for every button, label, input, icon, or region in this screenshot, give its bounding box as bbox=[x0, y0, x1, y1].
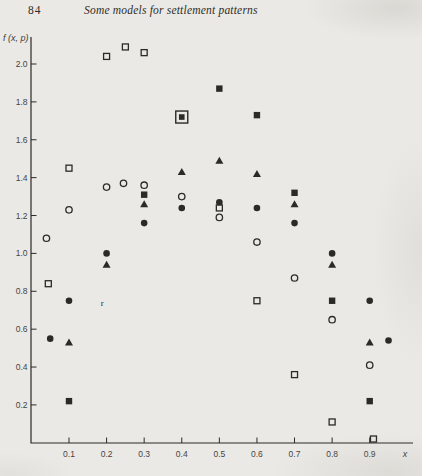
y-tick-label: 1.2 bbox=[16, 211, 28, 221]
marker-square-filled bbox=[291, 190, 297, 196]
y-tick-label: 1.4 bbox=[16, 173, 28, 183]
marker-circle-open bbox=[329, 316, 335, 322]
marker-circle-open bbox=[254, 239, 260, 245]
marker-triangle-filled bbox=[103, 261, 111, 268]
marker-square-open bbox=[292, 372, 298, 378]
marker-circle-filled bbox=[47, 335, 54, 342]
marker-triangle-filled bbox=[65, 339, 73, 346]
y-tick-label: 0.4 bbox=[16, 362, 28, 372]
marker-triangle-filled bbox=[215, 157, 223, 164]
x-tick-label: 0.6 bbox=[251, 449, 263, 459]
marker-square-open bbox=[104, 53, 110, 59]
x-axis-label: x bbox=[402, 449, 408, 459]
marker-circle-filled bbox=[385, 337, 392, 344]
marker-square-filled bbox=[216, 85, 222, 91]
y-tick-label: 0.2 bbox=[16, 400, 28, 410]
marker-square-open bbox=[45, 281, 51, 287]
x-tick-label: 0.7 bbox=[289, 449, 301, 459]
marker-circle-open bbox=[179, 193, 185, 199]
marker-circle-filled bbox=[216, 199, 223, 206]
marker-circle-open bbox=[141, 182, 147, 188]
marker-square-open bbox=[216, 205, 222, 211]
y-tick-label: 0.6 bbox=[16, 324, 28, 334]
x-tick-label: 0.5 bbox=[213, 449, 225, 459]
marker-circle-open bbox=[216, 214, 222, 220]
marker-circle-filled bbox=[141, 220, 148, 227]
x-tick-label: 0.8 bbox=[326, 449, 338, 459]
y-tick-label: 1.8 bbox=[16, 97, 28, 107]
marker-square-filled bbox=[329, 298, 335, 304]
y-tick-label: 1.0 bbox=[16, 248, 28, 258]
x-tick-label: 0.4 bbox=[176, 449, 188, 459]
marker-circle-open bbox=[43, 235, 49, 241]
marker-circle-filled bbox=[366, 297, 373, 304]
marker-circle-open bbox=[291, 275, 297, 281]
y-tick-label: 0.8 bbox=[16, 286, 28, 296]
scatter-plot: 2.01.81.61.41.21.00.80.60.40.20.10.20.30… bbox=[0, 0, 422, 476]
marker-square-open bbox=[122, 44, 128, 50]
marker-triangle-filled bbox=[366, 339, 374, 346]
marker-triangle-filled bbox=[178, 168, 186, 175]
marker-square-open bbox=[141, 50, 147, 56]
marker-circle-filled bbox=[329, 250, 336, 257]
marker-square-in-square-inner bbox=[179, 114, 185, 120]
marker-circle-open bbox=[367, 362, 373, 368]
marker-square-filled bbox=[367, 398, 373, 404]
x-tick-label: 0.1 bbox=[63, 449, 75, 459]
x-tick-label: 0.3 bbox=[138, 449, 150, 459]
y-axis-label: f (x, p) bbox=[3, 33, 29, 43]
marker-square-open bbox=[370, 436, 376, 442]
marker-triangle-filled bbox=[140, 200, 148, 207]
marker-circle-open bbox=[120, 180, 126, 186]
marker-circle-filled bbox=[66, 297, 73, 304]
marker-r-glyph: r bbox=[101, 298, 104, 308]
marker-triangle-filled bbox=[291, 200, 299, 207]
marker-square-filled bbox=[66, 398, 72, 404]
marker-circle-filled bbox=[254, 205, 261, 212]
marker-circle-open bbox=[66, 207, 72, 213]
marker-triangle-filled bbox=[253, 170, 261, 177]
marker-circle-filled bbox=[103, 250, 110, 257]
marker-square-filled bbox=[254, 112, 260, 118]
marker-circle-open bbox=[103, 184, 109, 190]
x-tick-label: 0.2 bbox=[101, 449, 113, 459]
y-tick-label: 2.0 bbox=[16, 59, 28, 69]
marker-square-filled bbox=[141, 191, 147, 197]
x-tick-label: 0.9 bbox=[364, 449, 376, 459]
marker-square-open bbox=[254, 298, 260, 304]
y-tick-label: 1.6 bbox=[16, 135, 28, 145]
marker-circle-filled bbox=[291, 220, 298, 227]
axis-lines bbox=[31, 37, 413, 443]
marker-square-open bbox=[66, 165, 72, 171]
marker-circle-filled bbox=[178, 205, 185, 212]
marker-square-open bbox=[329, 419, 335, 425]
marker-triangle-filled bbox=[328, 261, 336, 268]
book-page: 84 Some models for settlement patterns 2… bbox=[0, 0, 422, 476]
